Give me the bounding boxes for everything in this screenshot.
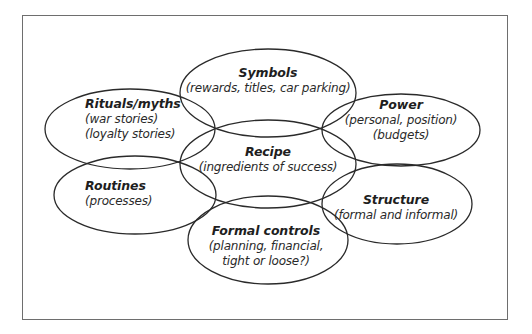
node-rituals-myths: Rituals/myths (war stories) (loyalty sto…: [85, 96, 181, 143]
node-detail: (personal, position): [345, 113, 457, 129]
node-title: Power: [345, 97, 457, 113]
node-title: Rituals/myths: [85, 96, 181, 112]
node-detail: tight or loose?): [209, 254, 324, 270]
node-title: Symbols: [186, 65, 351, 81]
node-formal-controls: Formal controls (planning, financial, ti…: [209, 223, 324, 270]
node-detail: (processes): [85, 194, 152, 210]
node-detail: (loyalty stories): [85, 127, 181, 143]
node-title: Structure: [334, 192, 458, 208]
node-title: Routines: [85, 178, 152, 194]
node-detail: (war stories): [85, 112, 181, 128]
node-title: Recipe: [199, 144, 337, 160]
node-detail: (rewards, titles, car parking): [186, 81, 351, 97]
node-title: Formal controls: [209, 223, 324, 239]
node-symbols: Symbols (rewards, titles, car parking): [186, 65, 351, 96]
node-detail: (budgets): [345, 128, 457, 144]
node-detail: (ingredients of success): [199, 160, 337, 176]
node-recipe: Recipe (ingredients of success): [199, 144, 337, 175]
node-detail: (formal and informal): [334, 208, 458, 224]
node-detail: (planning, financial,: [209, 239, 324, 255]
node-structure: Structure (formal and informal): [334, 192, 458, 223]
node-routines: Routines (processes): [85, 178, 152, 209]
node-power: Power (personal, position) (budgets): [345, 97, 457, 144]
diagram-canvas: Symbols (rewards, titles, car parking) R…: [0, 0, 532, 334]
